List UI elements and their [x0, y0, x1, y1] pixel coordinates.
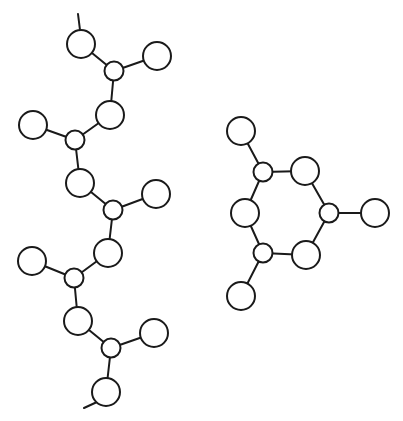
linear-chain-large-atom: [94, 239, 122, 267]
linear-chain-small-atom: [65, 269, 84, 288]
linear-chain-small-atom: [105, 62, 124, 81]
ring-structure-large-atom: [227, 282, 255, 310]
ring-structure-small-atom: [254, 244, 273, 263]
linear-chain-chain-end-stub: [84, 402, 97, 408]
linear-chain-large-atom: [92, 378, 120, 406]
linear-chain-small-atom: [104, 201, 123, 220]
ring-structure-large-atom: [291, 157, 319, 185]
molecule-diagram: [0, 0, 403, 421]
atoms-layer: [18, 30, 389, 406]
ring-structure-small-atom: [254, 163, 273, 182]
ring-structure-large-atom: [292, 241, 320, 269]
linear-chain-large-atom: [142, 180, 170, 208]
linear-chain-large-atom: [96, 101, 124, 129]
linear-chain-small-atom: [66, 131, 85, 150]
linear-chain-large-atom: [19, 111, 47, 139]
ring-structure-large-atom: [231, 199, 259, 227]
ring-structure-large-atom: [361, 199, 389, 227]
linear-chain-small-atom: [102, 339, 121, 358]
linear-chain-large-atom: [18, 247, 46, 275]
linear-chain-large-atom: [143, 42, 171, 70]
ring-structure-small-atom: [320, 204, 339, 223]
linear-chain-large-atom: [66, 169, 94, 197]
linear-chain-large-atom: [67, 30, 95, 58]
linear-chain-large-atom: [64, 307, 92, 335]
linear-chain-chain-end-stub: [78, 14, 80, 30]
linear-chain-large-atom: [140, 319, 168, 347]
ring-structure-large-atom: [227, 117, 255, 145]
